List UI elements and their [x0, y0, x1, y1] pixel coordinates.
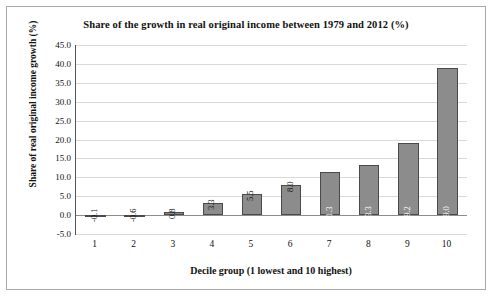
- bar-value-label: 0.8: [167, 208, 177, 219]
- x-axis-tick-label: 7: [327, 239, 332, 249]
- bar[interactable]: [437, 68, 457, 215]
- x-axis-tick-label: 6: [288, 239, 293, 249]
- y-axis-tick-label: 20.0: [27, 135, 71, 145]
- gridline: [76, 83, 467, 84]
- y-axis-tick-label: 35.0: [27, 78, 71, 88]
- y-axis-tick-label: 25.0: [27, 116, 71, 126]
- x-axis-tick-label: 2: [131, 239, 136, 249]
- y-axis-tick-label: 0.0: [27, 210, 71, 220]
- x-axis-tick-label: 9: [405, 239, 410, 249]
- x-axis-tick-label: 10: [442, 239, 452, 249]
- gridline: [76, 121, 467, 122]
- bar-value-label: 39.0: [441, 206, 451, 221]
- y-axis-tick-label: 15.0: [27, 153, 71, 163]
- bar-value-label: 8.0: [285, 181, 295, 192]
- x-axis-tick-label: 3: [170, 239, 175, 249]
- y-axis-tick-label: 40.0: [27, 59, 71, 69]
- x-axis-tick-label: 5: [249, 239, 254, 249]
- gridline: [76, 102, 467, 103]
- gridline: [76, 140, 467, 141]
- bar-value-label: 13.3: [363, 206, 373, 221]
- y-axis-tick-label: -5.0: [27, 229, 71, 239]
- x-axis-title: Decile group (1 lowest and 10 highest): [75, 265, 467, 276]
- x-axis-tick-label: 4: [209, 239, 214, 249]
- y-axis-tick-label: 30.0: [27, 97, 71, 107]
- y-axis-tick-labels: 45.040.035.030.025.020.015.010.05.00.0-5…: [25, 45, 71, 235]
- x-axis-tick-label: 1: [92, 239, 97, 249]
- y-axis-tick-label: 5.0: [27, 191, 71, 201]
- y-axis-tick-label: 10.0: [27, 172, 71, 182]
- chart-container: Share of the growth in real original inc…: [6, 6, 486, 290]
- bar-value-label: 11.3: [324, 207, 334, 222]
- gridline: [76, 234, 467, 235]
- x-axis-tick-label: 8: [366, 239, 371, 249]
- bar[interactable]: [398, 143, 418, 216]
- bar-value-label: -0.6: [128, 209, 138, 222]
- x-axis-tick-labels: 12345678910: [75, 239, 467, 253]
- gridline: [76, 64, 467, 65]
- bar-value-label: -0.1: [89, 209, 99, 222]
- bar-value-label: 3.3: [206, 199, 216, 210]
- plot-area: -0.1-0.60.83.35.58.011.313.319.239.0: [75, 45, 467, 235]
- bar-value-label: 5.5: [245, 191, 255, 202]
- bar-value-label: 19.2: [402, 206, 412, 221]
- chart-title: Share of the growth in real original inc…: [7, 19, 485, 30]
- gridline: [76, 45, 467, 46]
- y-axis-tick-label: 45.0: [27, 40, 71, 50]
